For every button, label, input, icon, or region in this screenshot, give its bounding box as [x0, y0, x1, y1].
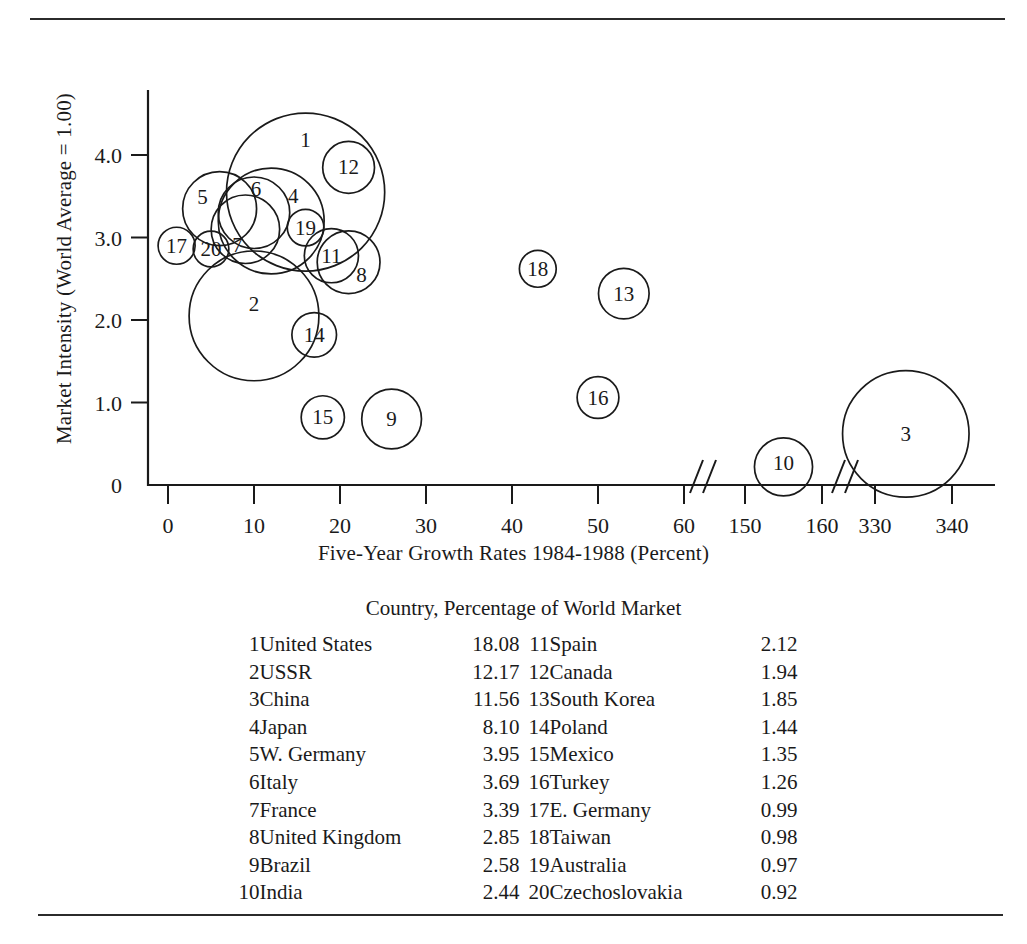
bubble-series: 1234567891011121314151617181920	[158, 113, 969, 497]
x-tick-label: 150	[729, 513, 762, 538]
legend-value-right: 1.44	[738, 715, 798, 743]
legend-index-left: 4	[230, 715, 260, 743]
bubble-label: 8	[356, 263, 367, 287]
legend-index-left: 10	[230, 880, 260, 908]
y-axis-title: Market Intensity (World Average = 1.00)	[52, 79, 77, 459]
bubble-label: 16	[588, 386, 609, 410]
bubble-label: 5	[197, 185, 208, 209]
y-tick-label: 3.0	[95, 226, 123, 251]
bubble-label: 17	[166, 234, 187, 258]
x-tick-label: 0	[163, 513, 174, 538]
figure-container: 01.02.03.04.0 0102030405060150160330340 …	[0, 0, 1027, 944]
bubble-label: 12	[338, 155, 359, 179]
bubble-16[interactable]: 16	[577, 377, 619, 419]
bubble-15[interactable]: 15	[301, 396, 344, 439]
legend-value-left: 3.95	[446, 742, 520, 770]
legend-index-left: 2	[230, 660, 260, 688]
legend-index-right: 17	[520, 798, 550, 826]
y-tick-marks	[131, 155, 148, 403]
legend-index-right: 18	[520, 825, 550, 853]
legend-country-right: Canada	[550, 660, 738, 688]
legend-index-right: 19	[520, 853, 550, 881]
x-tick-label: 50	[587, 513, 609, 538]
legend-row: 3China11.5613South Korea1.85	[230, 687, 798, 715]
legend-country-left: Italy	[260, 770, 446, 798]
legend-index-right: 13	[520, 687, 550, 715]
x-tick-label: 60	[673, 513, 695, 538]
legend-value-left: 8.10	[446, 715, 520, 743]
bubble-18[interactable]: 18	[519, 250, 556, 287]
x-tick-label: 40	[501, 513, 523, 538]
legend-value-right: 1.26	[738, 770, 798, 798]
legend-index-right: 15	[520, 742, 550, 770]
legend-value-left: 2.44	[446, 880, 520, 908]
legend-table: 1United States18.0811Spain2.122USSR12.17…	[230, 632, 798, 908]
legend-value-left: 18.08	[446, 632, 520, 660]
legend-country-left: China	[260, 687, 446, 715]
x-tick-label: 330	[859, 513, 892, 538]
legend-country-right: E. Germany	[550, 798, 738, 826]
legend-row: 8United Kingdom2.8518Taiwan0.98	[230, 825, 798, 853]
bubble-14[interactable]: 14	[292, 313, 337, 358]
legend-row: 9Brazil2.5819Australia0.97	[230, 853, 798, 881]
legend-country-left: Brazil	[260, 853, 446, 881]
bubble-19[interactable]: 19	[287, 209, 324, 246]
x-tick-label: 160	[806, 513, 839, 538]
scatter-plot: 01.02.03.04.0 0102030405060150160330340 …	[0, 20, 1027, 565]
legend-country-left: France	[260, 798, 446, 826]
legend-country-right: South Korea	[550, 687, 738, 715]
x-tick-label: 10	[243, 513, 265, 538]
legend-country-right: Czechoslovakia	[550, 880, 738, 908]
bottom-divider-rule	[38, 914, 1003, 916]
legend-country-left: United States	[260, 632, 446, 660]
bubble-17[interactable]: 17	[158, 227, 195, 264]
bubble-10[interactable]: 10	[754, 438, 812, 496]
legend-index-left: 8	[230, 825, 260, 853]
y-tick-label: 2.0	[95, 308, 123, 333]
legend-country-left: India	[260, 880, 446, 908]
legend-index-left: 9	[230, 853, 260, 881]
bubble-label: 7	[232, 233, 243, 257]
bubble-label: 18	[527, 257, 548, 281]
legend-index-left: 3	[230, 687, 260, 715]
legend-row: 5W. Germany3.9515Mexico1.35	[230, 742, 798, 770]
legend-row: 2USSR12.1712Canada1.94	[230, 660, 798, 688]
bubble-20[interactable]: 20	[193, 231, 229, 267]
axes: 01.02.03.04.0 0102030405060150160330340	[95, 90, 996, 538]
bubble-label: 19	[295, 216, 316, 240]
bubble-label: 13	[613, 282, 634, 306]
bubble-label: 3	[901, 422, 912, 446]
legend-value-right: 0.98	[738, 825, 798, 853]
bubble-12[interactable]: 12	[323, 141, 375, 193]
legend-country-left: United Kingdom	[260, 825, 446, 853]
y-tick-label: 0	[111, 473, 122, 498]
bubble-label: 20	[201, 237, 222, 261]
bubble-13[interactable]: 13	[599, 268, 650, 319]
legend-value-left: 2.58	[446, 853, 520, 881]
legend-index-left: 7	[230, 798, 260, 826]
legend-value-right: 0.97	[738, 853, 798, 881]
legend-row: 10India2.4420Czechoslovakia0.92	[230, 880, 798, 908]
bubble-label: 11	[321, 244, 341, 268]
legend-value-left: 3.69	[446, 770, 520, 798]
x-axis-title: Five-Year Growth Rates 1984-1988 (Percen…	[0, 541, 1027, 566]
legend-country-right: Turkey	[550, 770, 738, 798]
legend-value-left: 11.56	[446, 687, 520, 715]
legend-index-right: 14	[520, 715, 550, 743]
y-tick-labels: 01.02.03.04.0	[95, 143, 123, 498]
legend-value-right: 0.99	[738, 798, 798, 826]
y-tick-label: 4.0	[95, 143, 123, 168]
legend-value-right: 1.35	[738, 742, 798, 770]
bubble-9[interactable]: 9	[362, 389, 422, 449]
x-tick-label: 30	[415, 513, 437, 538]
x-tick-label: 340	[936, 513, 969, 538]
legend-value-right: 1.94	[738, 660, 798, 688]
x-tick-labels: 0102030405060150160330340	[163, 513, 969, 538]
bubble-label: 14	[304, 323, 326, 347]
bubble-3[interactable]: 3	[843, 371, 969, 497]
legend-value-left: 12.17	[446, 660, 520, 688]
legend-index-left: 5	[230, 742, 260, 770]
legend-index-right: 12	[520, 660, 550, 688]
legend-country-right: Spain	[550, 632, 738, 660]
bubble-label: 2	[249, 292, 260, 316]
